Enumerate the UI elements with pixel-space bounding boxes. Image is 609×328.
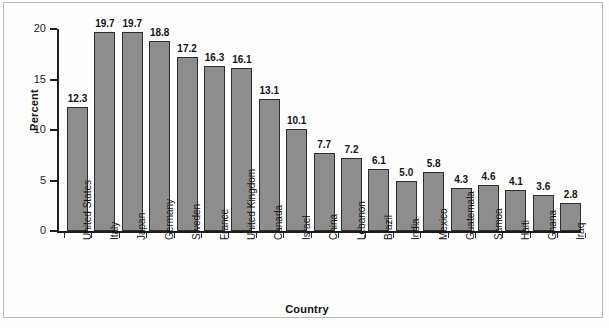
x-axis-category-label: United States — [82, 180, 93, 240]
y-axis-tick — [50, 230, 57, 232]
x-axis-tick — [557, 233, 558, 238]
bar-value-label: 6.1 — [361, 156, 396, 166]
bar-value-label: 18.8 — [142, 28, 177, 38]
x-axis-tick — [64, 233, 65, 238]
x-axis-tick — [174, 233, 175, 238]
x-axis-tick — [530, 233, 531, 238]
x-axis-tick — [119, 233, 120, 238]
x-axis-tick — [420, 233, 421, 238]
x-axis-category-label: United Kingdom — [246, 169, 257, 240]
y-axis-line — [57, 29, 59, 233]
figure-container: Percent Country 0510152012.3United State… — [0, 0, 609, 328]
x-axis-title: Country — [262, 303, 352, 315]
y-axis-tick-label: 20 — [18, 23, 46, 34]
y-axis-tick-label: 0 — [18, 225, 46, 236]
y-axis-tick — [50, 79, 57, 81]
bar-value-label: 12.3 — [60, 94, 95, 104]
bar-value-label: 7.2 — [334, 145, 369, 155]
x-axis-tick — [393, 233, 394, 238]
bar-value-label: 13.1 — [252, 86, 287, 96]
x-axis-tick — [502, 233, 503, 238]
y-axis-tick-label: 10 — [18, 124, 46, 135]
x-axis-tick — [338, 233, 339, 238]
bar-value-label: 5.8 — [416, 159, 451, 169]
bar-value-label: 16.1 — [224, 55, 259, 65]
x-axis-tick — [283, 233, 284, 238]
x-axis-tick — [448, 233, 449, 238]
y-axis-tick — [50, 129, 57, 131]
x-axis-tick — [201, 233, 202, 238]
x-axis-tick — [91, 233, 92, 238]
x-axis-tick — [228, 233, 229, 238]
x-axis-tick — [585, 233, 586, 238]
bar-value-label: 2.8 — [553, 190, 588, 200]
x-axis-tick — [365, 233, 366, 238]
bar — [94, 32, 115, 231]
y-axis-tick — [50, 180, 57, 182]
y-axis-tick-label: 15 — [18, 74, 46, 85]
x-axis-tick — [475, 233, 476, 238]
y-axis-tick-label: 5 — [18, 175, 46, 186]
bar-chart-plot: Percent Country 0510152012.3United State… — [0, 0, 609, 328]
x-axis-tick — [311, 233, 312, 238]
x-axis-tick — [146, 233, 147, 238]
y-axis-tick — [50, 28, 57, 30]
x-axis-tick — [256, 233, 257, 238]
bar — [122, 32, 143, 231]
bar — [204, 66, 225, 231]
bar-value-label: 10.1 — [279, 116, 314, 126]
